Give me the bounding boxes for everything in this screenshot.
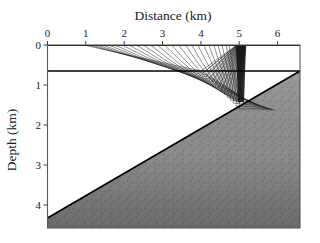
model-body	[48, 45, 301, 228]
y-tick-label: 1	[36, 79, 42, 91]
x-tick-label: 3	[160, 27, 166, 39]
cross-section-plot: Distance (km) Depth (km) 0 1 2 3 4 5 6 0…	[0, 0, 320, 243]
y-tick-label: 4	[36, 199, 42, 211]
figure-panel: Distance (km) Depth (km) 0 1 2 3 4 5 6 0…	[0, 0, 320, 243]
y-tick-label: 2	[36, 119, 42, 131]
x-tick-labels: 0 1 2 3 4 5 6	[45, 27, 281, 39]
x-tick-label: 2	[121, 27, 127, 39]
x-tick-label: 5	[236, 27, 242, 39]
x-axis-title: Distance (km)	[135, 8, 212, 23]
x-tick-label: 4	[198, 27, 204, 39]
y-tick-labels: 0 1 2 3 4	[36, 39, 42, 211]
y-axis-title: Depth (km)	[4, 109, 19, 172]
x-tick-label: 1	[83, 27, 89, 39]
y-tick-label: 3	[36, 159, 42, 171]
x-tick-label: 0	[45, 27, 51, 39]
y-tick-label: 0	[36, 39, 42, 51]
x-tick-label: 6	[275, 27, 281, 39]
